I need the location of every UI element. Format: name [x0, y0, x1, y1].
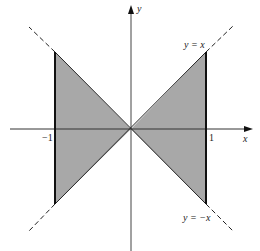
curve-label-y-equals-x: y = x [184, 40, 205, 50]
y-axis-arrow-icon [128, 5, 134, 14]
line-y-equals-x-dashed-upper [206, 26, 233, 52]
region-diagram [0, 0, 260, 251]
tick-label-pos-one: 1 [209, 133, 214, 143]
shaded-region-left [55, 52, 131, 204]
line-y-equals-neg-x-dashed-upper [29, 27, 55, 52]
x-axis-label: x [243, 134, 247, 144]
line-y-equals-x-dashed-lower [29, 204, 55, 231]
shaded-region-right [131, 52, 206, 204]
y-axis-label: y [137, 4, 141, 14]
curve-label-y-equals-neg-x: y = −x [183, 213, 210, 223]
x-axis-arrow-icon [244, 126, 253, 132]
tick-label-neg-one: −1 [42, 133, 53, 143]
